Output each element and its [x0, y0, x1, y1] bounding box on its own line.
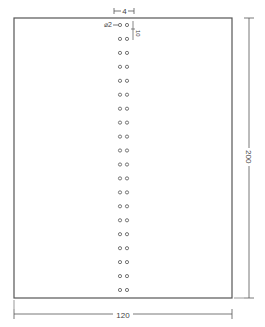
- hole: [125, 23, 128, 26]
- hole: [118, 107, 121, 110]
- hole-diameter-label: ⌀2: [104, 21, 112, 28]
- hole: [125, 219, 128, 222]
- hole: [118, 219, 121, 222]
- hole: [118, 51, 121, 54]
- hole: [125, 275, 128, 278]
- hole: [125, 247, 128, 250]
- hole: [118, 275, 121, 278]
- hole-spacing-dimension: 4: [114, 6, 134, 16]
- technical-drawing: 4 ⌀2 10 200 120: [0, 0, 265, 327]
- hole: [118, 163, 121, 166]
- hole: [118, 233, 121, 236]
- plate-outline: [14, 18, 232, 298]
- hole-pattern: [118, 23, 128, 291]
- hole: [118, 261, 121, 264]
- plate-width-label: 120: [116, 311, 130, 320]
- edge-offset-label: 10: [135, 30, 141, 37]
- hole: [125, 121, 128, 124]
- hole: [118, 191, 121, 194]
- hole: [118, 121, 121, 124]
- hole: [125, 79, 128, 82]
- hole: [125, 65, 128, 68]
- hole: [118, 149, 121, 152]
- edge-offset-callout: 10: [131, 21, 141, 40]
- hole-diameter-callout: ⌀2: [104, 21, 118, 28]
- hole: [125, 191, 128, 194]
- plate-height-label: 200: [244, 150, 253, 164]
- hole: [125, 93, 128, 96]
- hole: [118, 23, 121, 26]
- hole-spacing-label: 4: [122, 7, 127, 16]
- hole: [125, 288, 128, 291]
- hole: [118, 135, 121, 138]
- hole: [125, 37, 128, 40]
- hole: [118, 205, 121, 208]
- hole: [125, 233, 128, 236]
- hole: [125, 261, 128, 264]
- width-dimension: 120: [14, 300, 232, 320]
- hole: [125, 149, 128, 152]
- hole: [125, 135, 128, 138]
- hole: [125, 107, 128, 110]
- hole: [118, 93, 121, 96]
- hole: [125, 205, 128, 208]
- hole: [125, 163, 128, 166]
- hole: [118, 288, 121, 291]
- hole: [125, 177, 128, 180]
- hole: [118, 79, 121, 82]
- hole: [118, 177, 121, 180]
- hole: [118, 247, 121, 250]
- hole: [125, 51, 128, 54]
- hole: [118, 37, 121, 40]
- height-dimension: 200: [234, 18, 254, 298]
- hole: [118, 65, 121, 68]
